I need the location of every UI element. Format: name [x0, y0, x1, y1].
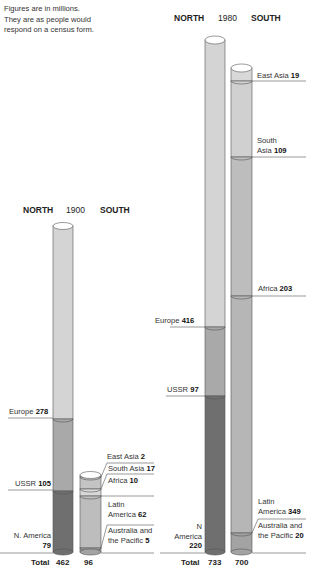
cylinder-1900-north — [53, 223, 73, 556]
header-1900-north: NORTH — [23, 205, 53, 215]
total-1980-south: 700 — [235, 558, 248, 567]
label-1980-australia-pacific: Australia and the Pacific 20 — [258, 521, 304, 540]
cylinder-1980-north — [205, 36, 225, 555]
label-1900-europe: Europe 278 — [9, 407, 48, 417]
header-1980-north: NORTH — [174, 13, 204, 23]
total-label-1980: Total — [181, 558, 200, 567]
total-1980-north: 733 — [208, 558, 221, 567]
header-1900-south: SOUTH — [100, 205, 130, 215]
label-1980-ussr: USSR 97 — [167, 385, 199, 395]
label-1980-latin-america: Latin America 349 — [258, 497, 301, 516]
total-label-1900: Total — [31, 558, 50, 567]
label-1980-africa: Africa 203 — [258, 284, 292, 294]
label-1900-australia-pacific: Australia and the Pacific 5 — [108, 526, 152, 545]
header-1900-year: 1900 — [66, 205, 85, 215]
chart-note: Figures are in millions. They are as peo… — [4, 4, 94, 36]
label-1980-south-asia: South Asia 109 — [257, 136, 287, 155]
label-1900-east-asia: East Asia 2 — [107, 452, 145, 462]
total-1900-north: 462 — [56, 558, 69, 567]
label-1980-east-asia: East Asia 19 — [257, 71, 299, 81]
label-1980-n-america: N America 220 — [160, 522, 202, 551]
cylinder-1980-south — [231, 64, 252, 555]
label-1900-africa: Africa 10 — [108, 476, 138, 486]
note-line-1: Figures are in millions. — [4, 4, 94, 15]
label-1980-europe: Europe 416 — [155, 316, 194, 326]
label-1900-south-asia: South Asia 17 — [108, 464, 155, 474]
note-line-2: They are as people would — [4, 15, 94, 26]
label-1900-latin-america: Latin America 62 — [108, 500, 146, 519]
header-1980-south: SOUTH — [251, 13, 281, 23]
note-line-3: respond on a census form. — [4, 25, 94, 36]
label-1900-n-america: N. America 79 — [13, 531, 51, 550]
label-1900-ussr: USSR 105 — [15, 479, 51, 489]
total-1900-south: 96 — [84, 558, 93, 567]
cylinder-1900-south — [80, 472, 101, 556]
header-1980-year: 1980 — [218, 13, 237, 23]
